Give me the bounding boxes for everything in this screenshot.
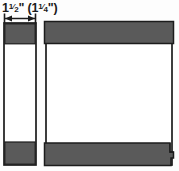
drawing-canvas: 11⁄2" (11⁄4") [0,0,179,171]
dimension-label-text: 11⁄2" (11⁄4") [2,1,58,15]
face-view-top-shaded-band [45,22,174,44]
dimension-label: 11⁄2" (11⁄4") [2,1,58,15]
technical-drawing-figure: 11⁄2" (11⁄4") [0,0,179,171]
face-view-bottom-shaded-band [45,143,174,166]
dimension-arrowhead-left [5,15,12,21]
face-view-panel [45,22,174,166]
edge-view-profile [4,23,36,165]
edge-view-bottom-shaded-band [5,142,35,164]
dim-paren-close: ) [54,1,58,15]
dimension-arrowhead-right [28,15,35,21]
edge-view-top-shaded-band [5,24,35,44]
dimension-line-group [5,14,36,24]
